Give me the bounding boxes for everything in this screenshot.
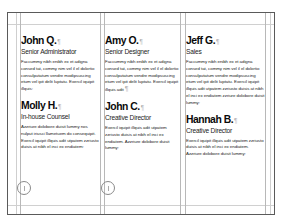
pilcrow-icon: ¶ xyxy=(141,104,144,111)
bottom-margin-guide[interactable] xyxy=(8,205,274,206)
profile-title: Senior Administrator xyxy=(21,48,100,56)
frame-port-circle-icon[interactable] xyxy=(17,181,31,195)
profile-name: John C.¶ xyxy=(105,100,173,114)
pilcrow-icon: ¶ xyxy=(216,38,219,45)
top-margin-guide[interactable] xyxy=(8,24,274,25)
pilcrow-icon: ¶ xyxy=(57,38,60,45)
profile-title: Creative Director xyxy=(186,127,265,135)
profile-entry: John Q.¶ Senior Administrator Faccummy n… xyxy=(21,34,100,93)
profile-title: Creative Director xyxy=(105,114,180,122)
port-tick xyxy=(108,186,109,191)
profile-name: Amy O.¶ xyxy=(105,34,173,48)
column-3-right-guide[interactable] xyxy=(265,13,266,214)
profile-entry: Jeff G.¶ Sales Faccummy nibh enibh ex et… xyxy=(186,34,265,107)
right-margin-guide[interactable] xyxy=(270,13,271,214)
profile-body: Faccummy nibh enibh ex et adigna consed … xyxy=(105,59,180,94)
frame-port-circle-icon[interactable] xyxy=(101,181,115,195)
pilcrow-icon: ¶ xyxy=(234,117,237,124)
pilcrow-icon: ¶ xyxy=(58,103,61,110)
pilcrow-icon: ¶ xyxy=(125,85,129,92)
port-tick xyxy=(24,186,25,191)
text-frame-column-3[interactable]: Jeff G.¶ Sales Faccummy nibh enibh ex et… xyxy=(186,34,265,164)
profile-body: Faccummy nibh enibh ex et adigna consed … xyxy=(186,59,265,107)
profile-body: Faccummy nibh enibh ex et adigna consed … xyxy=(21,59,100,93)
profile-entry: Amy O.¶ Senior Designer Faccummy nibh en… xyxy=(105,34,180,94)
profile-name: Hannah B.¶ xyxy=(186,113,257,127)
profile-entry: John C.¶ Creative Director Exercil iquip… xyxy=(105,100,180,152)
profile-title: Sales xyxy=(186,48,265,56)
profile-body: Azzriure dolobore duisit lummy nos nulpu… xyxy=(21,124,100,151)
profile-body: Exercil iquipit illquis adit utpatem zzr… xyxy=(105,125,180,152)
profile-title: Senior Designer xyxy=(105,48,180,56)
profile-entry: Hannah B.¶ Creative Director Exercil iqu… xyxy=(186,113,265,158)
profile-name: John Q.¶ xyxy=(21,34,92,48)
profile-body: Exercil iquipit illquis adit utpatem zzr… xyxy=(186,138,265,158)
column-2-right-guide[interactable] xyxy=(180,13,181,214)
pilcrow-icon: ¶ xyxy=(139,38,142,45)
profile-entry: Molly H.¶ In-house Counsel Azzriure dolo… xyxy=(21,99,100,151)
profile-name: Molly H.¶ xyxy=(21,99,92,113)
profile-name: Jeff G.¶ xyxy=(186,34,257,48)
profile-title: In-house Counsel xyxy=(21,113,100,121)
text-frame-column-1[interactable]: John Q.¶ Senior Administrator Faccummy n… xyxy=(21,34,100,157)
text-frame-column-2[interactable]: Amy O.¶ Senior Designer Faccummy nibh en… xyxy=(105,34,180,158)
